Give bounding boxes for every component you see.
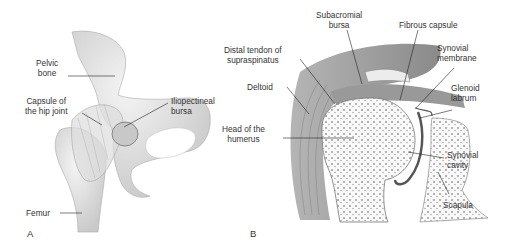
- humeral-head-shape: [322, 98, 415, 222]
- label-iliopectineal-bursa: Iliopectineal bursa: [171, 96, 215, 116]
- label-distal-tendon-supraspinatus: Distal tendon of supraspinatus: [224, 45, 282, 65]
- label-line: humerus: [222, 134, 265, 144]
- label-line: Subacromial: [316, 10, 362, 20]
- label-line: Capsule of: [25, 96, 67, 106]
- label-line: bursa: [171, 106, 215, 116]
- label-deltoid: Deltoid: [247, 82, 273, 92]
- label-glenoid-labrum: Glenoid labrum: [451, 83, 480, 103]
- iliopectineal-bursa-shape: [112, 122, 138, 146]
- label-head-of-humerus: Head of the humerus: [222, 124, 265, 144]
- label-subacromial-bursa: Subacromial bursa: [316, 10, 362, 30]
- label-line: bone: [36, 68, 58, 78]
- label-synovial-membrane: Synovial membrane: [437, 43, 477, 63]
- label-line: supraspinatus: [224, 55, 282, 65]
- label-line: Distal tendon of: [224, 45, 282, 55]
- label-line: cavity: [447, 160, 478, 170]
- label-line: Pelvic: [36, 58, 58, 68]
- label-line: membrane: [437, 53, 477, 63]
- label-synovial-cavity: Synovial cavity: [447, 150, 478, 170]
- label-line: Iliopectineal: [171, 96, 215, 106]
- label-fibrous-capsule: Fibrous capsule: [399, 20, 458, 30]
- label-femur: Femur: [26, 208, 50, 218]
- label-line: Synovial: [437, 43, 477, 53]
- label-line: the hip joint: [25, 106, 67, 116]
- panel-label-a: A: [27, 228, 33, 239]
- label-scapula: Scapula: [443, 200, 473, 210]
- label-line: Head of the: [222, 124, 265, 134]
- label-pelvic-bone: Pelvic bone: [36, 58, 58, 78]
- label-capsule-of-hip-joint: Capsule of the hip joint: [25, 96, 67, 116]
- label-line: labrum: [451, 93, 480, 103]
- label-line: bursa: [316, 20, 362, 30]
- panel-label-b: B: [250, 228, 256, 239]
- label-line: Synovial: [447, 150, 478, 160]
- hip-capsule-shape: [72, 105, 124, 182]
- hip-joint-illustration: [55, 31, 210, 232]
- label-line: Glenoid: [451, 83, 480, 93]
